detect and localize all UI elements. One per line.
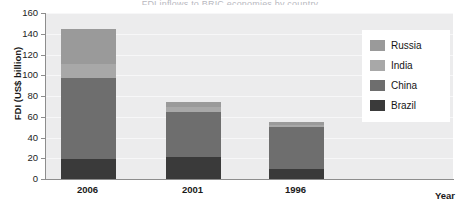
chart-legend: RussiaIndiaChinaBrazil <box>362 30 450 122</box>
bar-segment-russia-2006 <box>61 29 116 64</box>
legend-swatch-brazil <box>370 100 385 111</box>
bar-segment-brazil-2006 <box>61 159 116 179</box>
y-tick-mark <box>41 96 45 97</box>
legend-swatch-china <box>370 80 385 91</box>
legend-item-russia[interactable]: Russia <box>370 38 450 54</box>
gridline <box>46 13 453 14</box>
y-tick-label: 120 <box>8 50 38 60</box>
bar-segment-russia-1996 <box>269 122 324 125</box>
chart-title-cropped: FDI inflows to BRIC economies by country <box>120 0 340 5</box>
y-tick-label: 60 <box>8 112 38 122</box>
y-tick-label: 100 <box>8 70 38 80</box>
bar-segment-brazil-2001 <box>166 157 221 179</box>
x-tick-label-1996: 1996 <box>256 184 336 195</box>
y-tick-mark <box>41 34 45 35</box>
legend-item-india[interactable]: India <box>370 58 450 74</box>
y-tick-label: 140 <box>8 29 38 39</box>
y-tick-mark <box>41 179 45 180</box>
bar-segment-india-2006 <box>61 64 116 79</box>
legend-swatch-russia <box>370 40 385 51</box>
legend-item-china[interactable]: China <box>370 78 450 94</box>
legend-swatch-india <box>370 60 385 71</box>
y-tick-mark <box>41 13 45 14</box>
bar-2006 <box>61 29 116 179</box>
bar-segment-china-2001 <box>166 112 221 158</box>
y-tick-label: 0 <box>8 174 38 184</box>
legend-label: Brazil <box>391 98 416 113</box>
y-tick-label: 80 <box>8 91 38 101</box>
bar-segment-china-2006 <box>61 78 116 159</box>
x-tick-label-2006: 2006 <box>48 184 128 195</box>
bar-segment-china-1996 <box>269 127 324 169</box>
stacked-bar-chart: FDI inflows to BRIC economies by country… <box>0 0 458 205</box>
y-tick-mark <box>41 158 45 159</box>
y-tick-mark <box>41 75 45 76</box>
y-tick-mark <box>41 55 45 56</box>
y-axis-title: FDI (US$ billion) <box>12 29 23 139</box>
legend-label: Russia <box>391 38 422 53</box>
legend-label: China <box>391 78 417 93</box>
legend-label: India <box>391 58 413 73</box>
x-axis-line <box>45 179 454 180</box>
bar-segment-india-1996 <box>269 125 324 128</box>
bar-segment-brazil-1996 <box>269 169 324 179</box>
bar-segment-india-2001 <box>166 107 221 111</box>
y-tick-mark <box>41 138 45 139</box>
y-tick-mark <box>41 117 45 118</box>
x-axis-title: Year <box>435 190 455 201</box>
y-tick-label: 40 <box>8 133 38 143</box>
y-tick-label: 20 <box>8 153 38 163</box>
y-tick-label: 160 <box>8 8 38 18</box>
bar-1996 <box>269 122 324 179</box>
x-tick-label-2001: 2001 <box>153 184 233 195</box>
bar-segment-russia-2001 <box>166 102 221 107</box>
bar-2001 <box>166 102 221 179</box>
legend-item-brazil[interactable]: Brazil <box>370 98 450 114</box>
